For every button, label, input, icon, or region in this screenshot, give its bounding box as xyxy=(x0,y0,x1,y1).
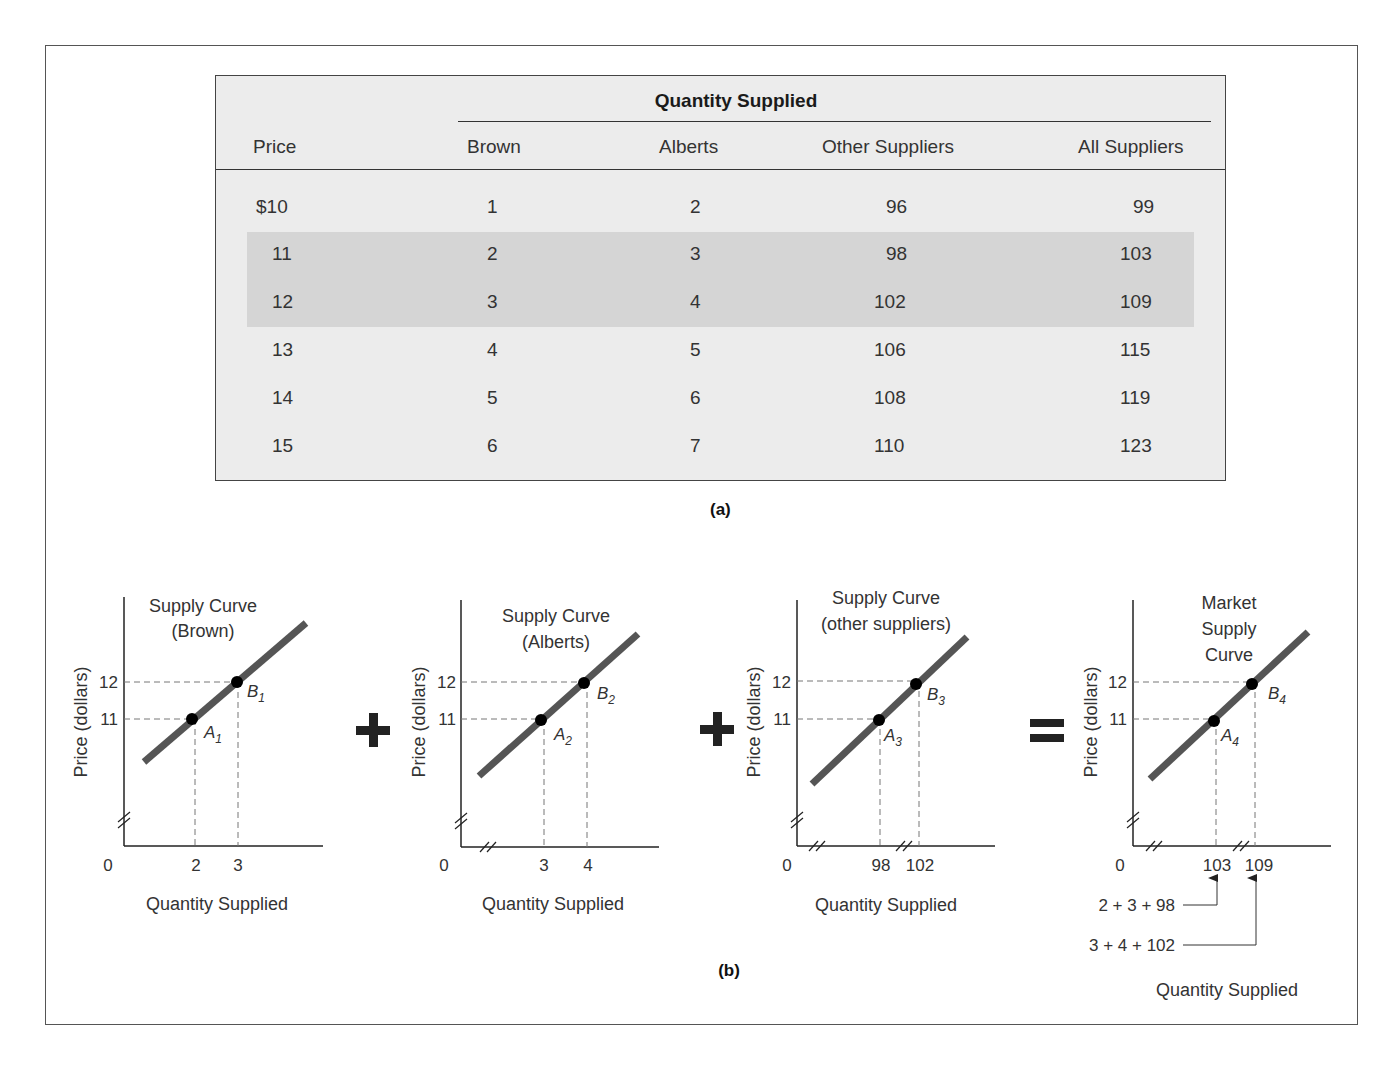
xtick: 103 xyxy=(1203,856,1231,875)
equals-operator-icon xyxy=(1030,719,1064,742)
caption-b: (b) xyxy=(718,961,740,980)
origin-label: 0 xyxy=(1115,856,1124,875)
ytick-11: 11 xyxy=(1109,710,1127,729)
point-label-b3: B3 xyxy=(927,685,945,708)
point-a1 xyxy=(186,713,198,725)
ytick-11: 11 xyxy=(438,710,456,729)
point-label-b4: B4 xyxy=(1268,684,1286,707)
point-b2 xyxy=(578,677,590,689)
ytick-12: 12 xyxy=(99,673,118,692)
origin-label: 0 xyxy=(439,856,448,875)
y-axis-label: Price (dollars) xyxy=(409,666,429,777)
supply-curve-line xyxy=(144,623,306,762)
graph-title-line: Supply xyxy=(1201,619,1256,639)
xtick: 109 xyxy=(1245,856,1273,875)
point-label-b1: B1 xyxy=(247,682,265,705)
x-axis-label: Quantity Supplied xyxy=(815,895,957,915)
x-axis-label: Quantity Supplied xyxy=(482,894,624,914)
point-label-a2: A2 xyxy=(553,725,572,748)
supply-graphs: Supply Curve (Brown) 12 11 Price (dollar… xyxy=(0,0,1393,1071)
ytick-12: 12 xyxy=(437,673,456,692)
y-axis-label: Price (dollars) xyxy=(1081,666,1101,777)
ytick-11: 11 xyxy=(773,710,791,729)
origin-label: 0 xyxy=(782,856,791,875)
origin-label: 0 xyxy=(103,856,112,875)
graph-title-line: Market xyxy=(1201,593,1256,613)
graph-title-line: Supply Curve xyxy=(832,588,940,608)
graph-title-line: Supply Curve xyxy=(502,606,610,626)
plus-operator-icon xyxy=(700,712,734,746)
xtick: 3 xyxy=(539,856,548,875)
graph-title-line: (Brown) xyxy=(171,621,234,641)
y-axis-label: Price (dollars) xyxy=(71,666,91,777)
graph-title-line: Supply Curve xyxy=(149,596,257,616)
point-label-a4: A4 xyxy=(1220,726,1239,749)
graph-panel-other-suppliers: Supply Curve (other suppliers) 12 11 Pri… xyxy=(744,588,995,915)
arrow-icon xyxy=(1183,878,1217,905)
graph-panel-brown: Supply Curve (Brown) 12 11 Price (dollar… xyxy=(71,596,323,914)
point-b3 xyxy=(910,678,922,690)
xtick: 4 xyxy=(583,856,592,875)
point-a2 xyxy=(535,714,547,726)
ytick-12: 12 xyxy=(772,673,791,692)
arrow-icon xyxy=(1183,878,1256,945)
point-a4 xyxy=(1208,715,1220,727)
graph-title-line: (Alberts) xyxy=(522,632,590,652)
point-a3 xyxy=(873,714,885,726)
xtick: 98 xyxy=(872,856,891,875)
ytick-11: 11 xyxy=(100,710,118,729)
ytick-12: 12 xyxy=(1108,673,1127,692)
x-axis-label: Quantity Supplied xyxy=(146,894,288,914)
sum-annotation: 3 + 4 + 102 xyxy=(1089,936,1175,955)
graph-title-line: (other suppliers) xyxy=(821,614,951,634)
point-label-a3: A3 xyxy=(883,726,902,749)
point-label-a1: A1 xyxy=(203,723,222,746)
graph-panel-market: Market Supply Curve 12 11 Price (dollars… xyxy=(1081,593,1331,1000)
sum-annotation: 2 + 3 + 98 xyxy=(1098,896,1175,915)
y-axis-label: Price (dollars) xyxy=(744,666,764,777)
xtick: 102 xyxy=(906,856,934,875)
xtick: 2 xyxy=(191,856,200,875)
plus-operator-icon xyxy=(356,713,390,747)
graph-title-line: Curve xyxy=(1205,645,1253,665)
supply-curve-line xyxy=(812,637,967,784)
point-b1 xyxy=(231,676,243,688)
point-label-b2: B2 xyxy=(597,684,615,707)
x-axis-label: Quantity Supplied xyxy=(1156,980,1298,1000)
point-b4 xyxy=(1246,678,1258,690)
xtick: 3 xyxy=(233,856,242,875)
graph-panel-alberts: Supply Curve (Alberts) 12 11 Price (doll… xyxy=(409,600,659,914)
